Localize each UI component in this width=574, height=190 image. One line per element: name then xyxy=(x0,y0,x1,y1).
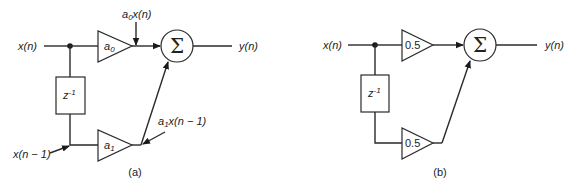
delayed-wire-b xyxy=(375,112,402,143)
output-label-b: y(n) xyxy=(544,39,564,51)
delayed-input-label: x(n − 1) xyxy=(12,148,51,160)
caption-b: (b) xyxy=(433,166,446,178)
a0xn-label: a0x(n) xyxy=(122,8,152,22)
input-label-a: x(n) xyxy=(17,40,37,52)
output-label-a: y(n) xyxy=(238,40,258,52)
delayed-input-pointer-arrow xyxy=(50,146,69,153)
input-label-b: x(n) xyxy=(322,39,342,51)
delayed-wire-a xyxy=(70,114,98,145)
sigma-symbol-a: Σ xyxy=(170,34,184,58)
diagram-b: x(n) 0.5 z-1 0.5 Σ y(n) (b) xyxy=(322,29,564,178)
gain-bottom-label-b: 0.5 xyxy=(405,137,420,149)
caption-a: (a) xyxy=(128,166,141,178)
bottom-path-wire-b xyxy=(442,61,470,143)
diagram-a: x(n) a0 a0x(n) z-1 x(n − 1) a1 a1x(n − 1… xyxy=(12,8,258,178)
a1xn1-label: a1x(n − 1) xyxy=(158,115,207,129)
a1xn1-pointer-arrow xyxy=(143,132,165,144)
gain-top-label-b: 0.5 xyxy=(405,39,420,51)
sigma-symbol-b: Σ xyxy=(473,33,487,57)
filter-diagrams: x(n) a0 a0x(n) z-1 x(n − 1) a1 a1x(n − 1… xyxy=(0,0,574,190)
